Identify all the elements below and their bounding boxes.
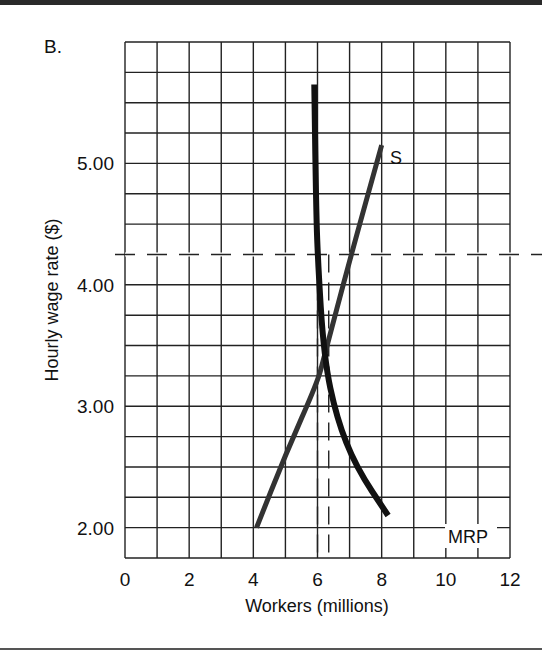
x-tick-label: 0 xyxy=(120,569,131,590)
mrp-curve xyxy=(314,84,388,515)
wage-labor-chart: 024681012 2.003.004.005.00 Workers (mill… xyxy=(0,0,542,662)
y-tick-label: 4.00 xyxy=(77,275,114,296)
curves xyxy=(257,84,389,527)
y-axis-ticks: 2.003.004.005.00 xyxy=(77,153,114,538)
bottom-border xyxy=(0,648,542,650)
x-tick-label: 4 xyxy=(248,569,259,590)
y-tick-label: 2.00 xyxy=(77,518,114,539)
supply-curve-label: S xyxy=(390,148,402,168)
x-tick-label: 6 xyxy=(312,569,323,590)
x-axis-ticks: 024681012 xyxy=(120,569,521,590)
y-tick-label: 3.00 xyxy=(77,396,114,417)
x-tick-label: 12 xyxy=(499,569,520,590)
mrp-curve-label: MRP xyxy=(448,527,488,547)
y-tick-label: 5.00 xyxy=(77,153,114,174)
x-axis-title: Workers (millions) xyxy=(245,596,389,616)
x-tick-label: 8 xyxy=(376,569,387,590)
x-tick-label: 10 xyxy=(435,569,456,590)
y-axis-title: Hourly wage rate ($) xyxy=(42,218,62,381)
x-tick-label: 2 xyxy=(184,569,195,590)
